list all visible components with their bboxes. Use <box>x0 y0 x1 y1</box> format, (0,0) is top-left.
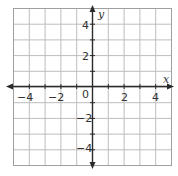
x-axis <box>6 84 174 90</box>
coordinate-plane: y x −4 −2 0 2 4 4 2 −2 −4 <box>0 0 178 176</box>
y-tick-label: 2 <box>82 50 89 63</box>
x-axis-left-arrow-icon <box>6 84 13 90</box>
x-tick-label: −2 <box>48 91 64 104</box>
y-tick-label: −4 <box>76 142 92 155</box>
x-tick-label: −4 <box>17 91 33 104</box>
y-axis-label: y <box>97 8 105 21</box>
x-tick-label: 2 <box>121 91 128 104</box>
x-tick-label: 4 <box>152 91 159 104</box>
y-tick-label: −2 <box>76 112 92 125</box>
origin-label: 0 <box>82 88 89 101</box>
x-axis-label: x <box>163 73 170 86</box>
y-tick-label: 4 <box>82 19 89 32</box>
